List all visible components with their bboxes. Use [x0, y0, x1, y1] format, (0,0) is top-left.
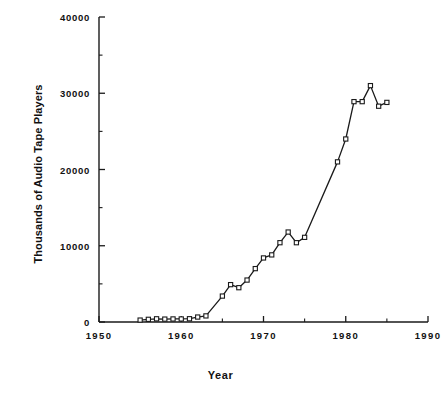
data-point-marker [286, 230, 290, 234]
x-axis-tick-label: 1980 [311, 330, 381, 341]
data-point-marker [303, 235, 307, 239]
x-axis-tick-label: 1960 [146, 330, 216, 341]
data-point-marker [270, 253, 274, 257]
data-point-markers [138, 84, 389, 323]
data-point-marker [368, 84, 372, 88]
x-axis-tick-label: 1950 [64, 330, 134, 341]
data-point-marker [154, 317, 158, 321]
y-axis-major-ticks [99, 17, 105, 322]
data-point-marker [253, 267, 257, 271]
data-point-marker [229, 283, 233, 287]
data-point-marker [245, 278, 249, 282]
data-point-marker [278, 241, 282, 245]
data-line-series [140, 86, 387, 320]
data-point-marker [196, 315, 200, 319]
data-point-marker [335, 160, 339, 164]
data-point-marker [179, 317, 183, 321]
y-axis-tick-label: 40000 [34, 12, 90, 23]
x-axis-tick-labels: 19501960197019801990 [0, 330, 441, 348]
data-point-marker [187, 317, 191, 321]
chart-figure: 010000200003000040000 195019601970198019… [0, 0, 441, 397]
data-point-marker [261, 256, 265, 260]
data-point-marker [294, 241, 298, 245]
data-point-marker [237, 286, 241, 290]
data-point-marker [138, 318, 142, 322]
x-axis-tick-label: 1990 [393, 330, 441, 341]
x-axis-title: Year [0, 369, 441, 381]
x-axis-tick-label: 1970 [229, 330, 299, 341]
data-point-marker [385, 100, 389, 104]
data-point-marker [377, 104, 381, 108]
data-point-marker [344, 137, 348, 141]
data-point-marker [204, 314, 208, 318]
data-point-marker [220, 294, 224, 298]
data-point-marker [146, 317, 150, 321]
y-axis-tick-label: 0 [34, 317, 90, 328]
data-point-marker [163, 317, 167, 321]
y-axis-title: Thousands of Audio Tape Players [32, 54, 44, 294]
data-point-marker [352, 100, 356, 104]
data-point-marker [171, 317, 175, 321]
data-point-marker [360, 100, 364, 104]
